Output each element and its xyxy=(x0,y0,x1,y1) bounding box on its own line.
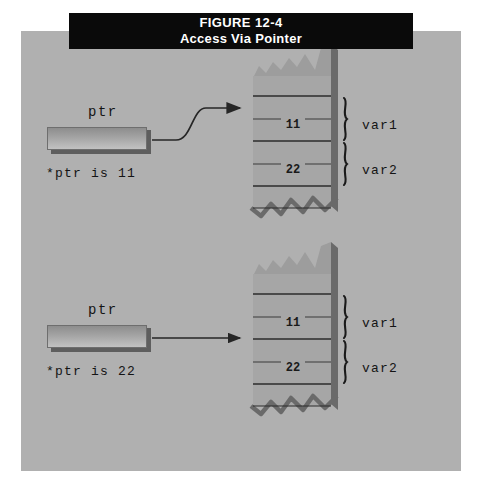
memory-value-var1-top: 11 xyxy=(278,118,308,132)
memory-block-graphic-bottom xyxy=(245,238,375,423)
memory-brace-label-var2-bottom: var2 xyxy=(362,361,398,376)
memory-block-graphic-top xyxy=(245,40,375,225)
memory-brace-label-var2-top: var2 xyxy=(362,163,398,178)
figure-title: Access Via Pointer xyxy=(69,31,413,47)
memory-brace-label-var1-top: var1 xyxy=(362,118,398,133)
memory-value-var1-bottom: 11 xyxy=(278,316,308,330)
figure-root: FIGURE 12-4 Access Via Pointer ptr *ptr … xyxy=(0,0,482,491)
figure-number: FIGURE 12-4 xyxy=(69,15,413,31)
memory-value-var2-top: 22 xyxy=(278,163,308,177)
memory-brace-label-var1-bottom: var1 xyxy=(362,316,398,331)
diagram-bottom: ptr *ptr is 22 xyxy=(0,228,440,428)
figure-title-bar: FIGURE 12-4 Access Via Pointer xyxy=(69,13,413,49)
memory-column-bottom: 11 22 var1 var2 xyxy=(245,238,375,418)
memory-column-top: 11 22 var1 var2 xyxy=(245,40,375,220)
diagram-top: ptr *ptr is 11 xyxy=(0,30,440,230)
memory-value-var2-bottom: 22 xyxy=(278,361,308,375)
